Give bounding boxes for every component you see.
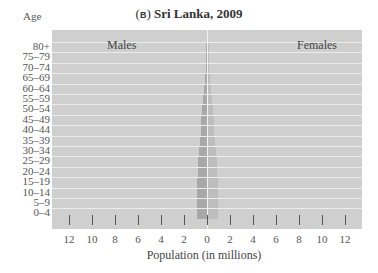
x-tick-label: 8 [289, 233, 309, 245]
x-tick [345, 215, 346, 225]
female-bar [208, 156, 217, 166]
x-tick-label: 4 [243, 233, 263, 245]
x-tick-label: 2 [174, 233, 194, 245]
female-bar [208, 208, 218, 218]
female-bar [208, 84, 211, 94]
females-label: Females [297, 38, 337, 53]
male-bar [200, 136, 207, 146]
male-bar [197, 198, 207, 208]
x-axis-label: Population (in millions) [0, 248, 378, 263]
x-tick-label: 6 [128, 233, 148, 245]
female-bar [208, 104, 213, 114]
x-tick-label: 10 [82, 233, 102, 245]
x-tick [184, 215, 185, 225]
chart-title-text: Sri Lanka, 2009 [154, 6, 243, 21]
y-axis-title: Age [23, 10, 41, 22]
x-tick [138, 215, 139, 225]
female-bar [208, 188, 218, 198]
x-tick [322, 215, 323, 225]
x-tick [299, 215, 300, 225]
female-bar [208, 94, 212, 104]
x-tick-label: 2 [220, 233, 240, 245]
female-bar [208, 136, 215, 146]
female-bar [208, 177, 218, 187]
x-tick [276, 215, 277, 225]
x-tick [115, 215, 116, 225]
female-bar [208, 73, 210, 83]
x-tick-label: 10 [312, 233, 332, 245]
x-tick [161, 215, 162, 225]
female-bar [208, 167, 217, 177]
x-tick-label: 4 [151, 233, 171, 245]
female-bar [208, 125, 214, 135]
male-bar [198, 167, 207, 177]
panel-tag: B [140, 10, 147, 20]
males-label: Males [107, 38, 136, 53]
x-tick [207, 215, 208, 225]
age-group-label: 0–4 [34, 207, 51, 218]
x-tick-label: 12 [59, 233, 79, 245]
male-bar [199, 146, 207, 156]
male-bar [197, 177, 207, 187]
x-tick-label: 0 [197, 233, 217, 245]
x-tick [92, 215, 93, 225]
female-bar [208, 42, 209, 52]
female-bar [208, 146, 216, 156]
female-bar [208, 63, 209, 73]
male-bar [197, 188, 207, 198]
x-tick-label: 6 [266, 233, 286, 245]
female-bar [208, 198, 218, 208]
plot-area [52, 30, 362, 229]
x-tick [69, 215, 70, 225]
x-tick-label: 8 [105, 233, 125, 245]
zero-axis-line [207, 30, 208, 229]
female-bar [208, 52, 209, 62]
x-tick [253, 215, 254, 225]
chart-title: (B) Sri Lanka, 2009 [0, 6, 378, 22]
male-bar [198, 156, 207, 166]
female-bar [208, 115, 214, 125]
male-bar [197, 208, 207, 218]
x-tick-label: 12 [335, 233, 355, 245]
x-tick [230, 215, 231, 225]
